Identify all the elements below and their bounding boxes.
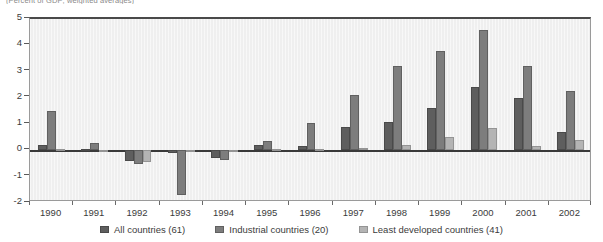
chart-legend: All countries (61)Industrial countries (… (0, 219, 603, 239)
bar-1996-series-2 (315, 149, 324, 151)
legend-label: All countries (61) (114, 224, 185, 235)
bar-1999-series-1 (436, 51, 445, 151)
x-axis-tick (72, 201, 73, 205)
x-axis-tick (375, 201, 376, 205)
bar-1995-series-2 (272, 149, 281, 151)
x-axis-tick-label: 1995 (256, 207, 277, 219)
zero-line (30, 150, 590, 152)
chart-caption: (Percent of GDP; weighted averages) (6, 0, 134, 4)
bar-1991-series-2 (99, 150, 108, 152)
bar-1994-series-2 (229, 150, 238, 152)
bar-1999-series-0 (427, 108, 436, 150)
bar-1996-series-1 (307, 123, 316, 151)
bar-1990-series-1 (47, 111, 56, 150)
bar-1991-series-0 (81, 149, 90, 151)
bar-2000-series-1 (479, 30, 488, 151)
bar-1997-series-0 (341, 127, 350, 151)
x-axis-tick-label: 2001 (516, 207, 537, 219)
y-axis-tick-label: 1 (17, 117, 22, 127)
bar-1990-series-0 (38, 145, 47, 150)
legend-item: Industrial countries (20) (215, 224, 328, 235)
y-axis-tick-label: -1 (14, 170, 22, 180)
y-axis-tick: 3 (0, 65, 29, 75)
x-axis-tick (115, 201, 116, 205)
legend-swatch (100, 226, 109, 233)
bar-2002-series-2 (575, 140, 584, 151)
y-axis-tick: 5 (0, 12, 29, 22)
y-axis-tick-label: 5 (17, 12, 22, 22)
x-axis-tick (159, 201, 160, 205)
x-axis-tick (288, 201, 289, 205)
x-axis-tick-label: 1993 (170, 207, 191, 219)
x-axis-tick-label: 2002 (559, 207, 580, 219)
bar-1999-series-2 (445, 137, 454, 150)
x-axis-tick-label: 1997 (343, 207, 364, 219)
y-axis-tick-label: -2 (14, 196, 22, 206)
bar-1997-series-2 (359, 148, 368, 151)
bar-1998-series-1 (393, 66, 402, 150)
bar-1994-series-0 (211, 150, 220, 158)
plot-area (29, 17, 591, 201)
bar-1992-series-0 (125, 150, 134, 161)
bar-1990-series-2 (56, 149, 65, 151)
bar-1993-series-0 (168, 150, 177, 153)
y-axis-tick-label: 4 (17, 38, 22, 48)
x-axis-tick-label: 1990 (40, 207, 61, 219)
bar-1991-series-1 (90, 143, 99, 151)
chart-root: (Percent of GDP; weighted averages) 5432… (0, 0, 603, 242)
legend-item: All countries (61) (100, 224, 185, 235)
x-axis-tick (29, 201, 30, 205)
bar-1995-series-1 (263, 141, 272, 150)
x-axis-tick (505, 201, 506, 205)
y-axis-tick-label: 2 (17, 91, 22, 101)
bar-1996-series-0 (298, 146, 307, 150)
bar-1994-series-1 (220, 150, 229, 159)
y-axis-tick: 2 (0, 91, 29, 101)
y-axis-tick: -1 (0, 170, 29, 180)
plot-background-texture (30, 19, 590, 200)
x-axis-tick-label: 1992 (126, 207, 147, 219)
bar-2002-series-1 (566, 91, 575, 150)
x-axis-tick (418, 201, 419, 205)
bar-2000-series-2 (488, 128, 497, 150)
x-axis-tick-label: 1994 (213, 207, 234, 219)
legend-label: Industrial countries (20) (229, 224, 328, 235)
bar-1992-series-1 (134, 150, 143, 163)
bar-1995-series-0 (254, 145, 263, 150)
bar-2000-series-0 (471, 87, 480, 150)
y-axis-tick-label: 3 (17, 65, 22, 75)
bar-1993-series-1 (177, 150, 186, 195)
plot-inner (30, 19, 590, 200)
x-axis-tick (548, 201, 549, 205)
legend-swatch (359, 226, 368, 233)
y-axis-tick: -2 (0, 196, 29, 206)
bar-2001-series-0 (514, 98, 523, 151)
bar-1998-series-0 (384, 122, 393, 151)
bar-2001-series-1 (523, 66, 532, 150)
bar-1992-series-2 (143, 150, 152, 162)
x-axis: 1990199119921993199419951996199719981999… (29, 201, 591, 221)
y-axis-tick: 4 (0, 38, 29, 48)
x-axis-tick-label: 2000 (472, 207, 493, 219)
legend-swatch (215, 226, 224, 233)
bar-2001-series-2 (532, 146, 541, 150)
y-axis-tick: 1 (0, 117, 29, 127)
legend-item: Least developed countries (41) (359, 224, 503, 235)
bar-1993-series-2 (186, 150, 195, 152)
x-axis-tick-label: 1991 (83, 207, 104, 219)
x-axis-tick (245, 201, 246, 205)
x-axis-tick (332, 201, 333, 205)
x-axis-tick (590, 201, 591, 205)
x-axis-tick (202, 201, 203, 205)
bar-1998-series-2 (402, 145, 411, 151)
y-axis: 543210-1-2 (0, 17, 29, 201)
x-axis-tick-label: 1996 (299, 207, 320, 219)
bar-2002-series-0 (557, 132, 566, 150)
y-axis-tick: 0 (0, 143, 29, 153)
x-axis-tick (461, 201, 462, 205)
bar-1997-series-1 (350, 95, 359, 150)
legend-label: Least developed countries (41) (373, 224, 503, 235)
x-axis-tick-label: 1998 (386, 207, 407, 219)
x-axis-tick-label: 1999 (429, 207, 450, 219)
y-axis-tick-label: 0 (17, 143, 22, 153)
